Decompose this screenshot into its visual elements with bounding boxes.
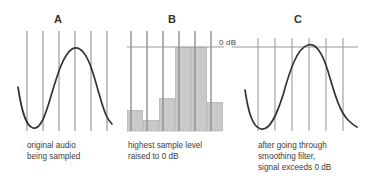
caption-panel-a: original audio being sampled — [27, 140, 127, 162]
caption-panel-b: highest sample level raised to 0 dB — [128, 140, 233, 162]
sample-bar — [192, 48, 207, 132]
panel-b-bars — [128, 48, 223, 132]
zero-db-label: 0 dB — [219, 38, 236, 47]
sample-bar — [128, 111, 143, 132]
caption-panel-c: after going through smoothing filter, si… — [258, 140, 365, 173]
sample-bar — [176, 48, 191, 132]
figure-root: A B C — [0, 0, 365, 185]
sample-bar — [208, 103, 223, 132]
waveform-original-audio — [18, 48, 112, 128]
waveform-smoothed-signal — [245, 45, 357, 129]
sample-bar — [160, 99, 175, 132]
panel-c-gridlines — [258, 38, 343, 131]
sample-bar — [144, 121, 159, 132]
